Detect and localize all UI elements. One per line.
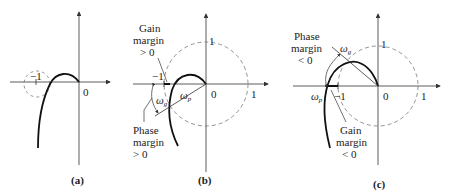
panel-b-one-x-label: 1 xyxy=(251,88,257,100)
panel-c-omega-p-label: ωp xyxy=(311,90,323,104)
panel-b-omega-p-label: ωp xyxy=(180,89,192,103)
panel-a-nyquist-curve xyxy=(38,74,79,148)
panel-a-minus-one-label: −1 xyxy=(30,70,42,82)
panel-b-phase-margin-line1: Phase xyxy=(133,124,159,136)
panel-b: Gain margin > 0 −1 0 1 1 ωp ωg Phase mar… xyxy=(133,14,268,187)
panel-c-gain-margin-line3: < 0 xyxy=(342,148,357,160)
panel-b-origin-label: 0 xyxy=(211,88,217,100)
panel-c-phase-margin-line1: Phase xyxy=(294,30,320,42)
panel-b-phase-margin-line3: > 0 xyxy=(133,148,148,160)
nyquist-diagram-figure: −1 0 (a) Gain margin > 0 −1 0 1 1 ωp ωg … xyxy=(0,0,452,192)
panel-c-phase-margin-line3: < 0 xyxy=(298,54,313,66)
panel-c-origin-label: 0 xyxy=(383,90,389,102)
panel-b-one-y-label: 1 xyxy=(209,35,215,47)
panel-b-caption: (b) xyxy=(198,174,212,187)
panel-c-caption: (c) xyxy=(373,178,386,191)
panel-b-nyquist-curve xyxy=(169,75,206,146)
panel-c-gain-margin-line2: margin xyxy=(336,136,367,148)
panel-b-gain-margin-line3: > 0 xyxy=(140,46,155,58)
panel-c-one-y-label: 1 xyxy=(381,38,387,50)
panel-c-phase-margin-line2: margin xyxy=(291,42,322,54)
panel-a: −1 0 (a) xyxy=(10,12,110,187)
panel-b-gain-margin-line1: Gain xyxy=(139,22,161,34)
panel-c-minus-one-label: −1 xyxy=(334,90,346,102)
panel-c-omega-g-label: ωg xyxy=(340,42,352,56)
panel-a-caption: (a) xyxy=(71,174,84,187)
panel-c-one-x-label: 1 xyxy=(421,90,427,102)
panel-b-minus-one-label: −1 xyxy=(152,70,164,82)
panel-b-phase-margin-leader xyxy=(144,98,152,110)
panel-c-gain-margin-line1: Gain xyxy=(340,124,362,136)
panel-b-gain-margin-line2: margin xyxy=(133,34,164,46)
panel-b-phase-margin-line2: margin xyxy=(133,136,164,148)
panel-c: Phase margin < 0 ωg ωp −1 0 1 1 Gain mar… xyxy=(291,14,440,191)
panel-a-origin-label: 0 xyxy=(83,86,89,98)
